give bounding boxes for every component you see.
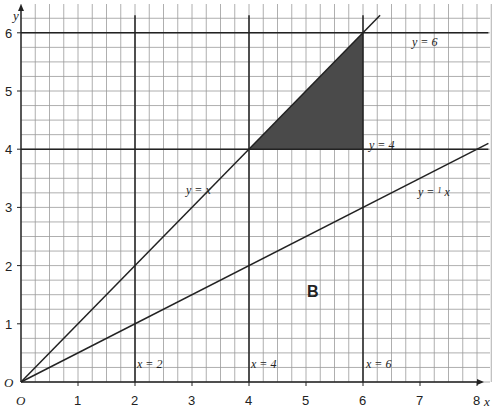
label-y-eq-4: y = 4 [368, 138, 394, 152]
x-tick-5: 5 [302, 393, 309, 408]
label-x-eq-4: x = 4 [250, 357, 276, 371]
origin-label: O [4, 375, 14, 390]
y-tick-6: 6 [5, 26, 12, 41]
label-y-eq-x: y = x [185, 183, 211, 197]
y-tick-2: 2 [5, 259, 12, 274]
x-tick-7: 7 [416, 393, 423, 408]
x-tick-8: 8 [473, 393, 480, 408]
y-tick-3: 3 [5, 200, 12, 215]
label-y-eq-half-x: y = 1 x [417, 185, 450, 199]
y-axis-label: y [11, 8, 19, 23]
region-label-b: B [307, 283, 319, 300]
x-tick-4: 4 [245, 393, 252, 408]
line-y-eq-half-x [21, 143, 488, 382]
line-y-eq-x [21, 15, 380, 382]
x-tick-1: 1 [74, 393, 81, 408]
label-x-eq-2: x = 2 [136, 357, 162, 371]
axes [18, 4, 484, 385]
label-y-eq-6: y = 6 [411, 35, 437, 49]
x-tick-2: 2 [131, 393, 138, 408]
origin-x-label: O [16, 393, 26, 408]
label-x-eq-6: x = 6 [365, 357, 391, 371]
x-tick-6: 6 [359, 393, 366, 408]
x-axis-label: x [483, 394, 490, 409]
y-tick-5: 5 [5, 84, 12, 99]
y-tick-4: 4 [5, 142, 12, 157]
x-tick-3: 3 [188, 393, 195, 408]
x-tick-labels: 12345678 [74, 382, 480, 408]
y-tick-1: 1 [5, 317, 12, 332]
coordinate-graph: x y O O 12345678 123456 y = 6 y = 4 y = … [0, 0, 496, 409]
y-tick-labels: 123456 [5, 26, 21, 332]
